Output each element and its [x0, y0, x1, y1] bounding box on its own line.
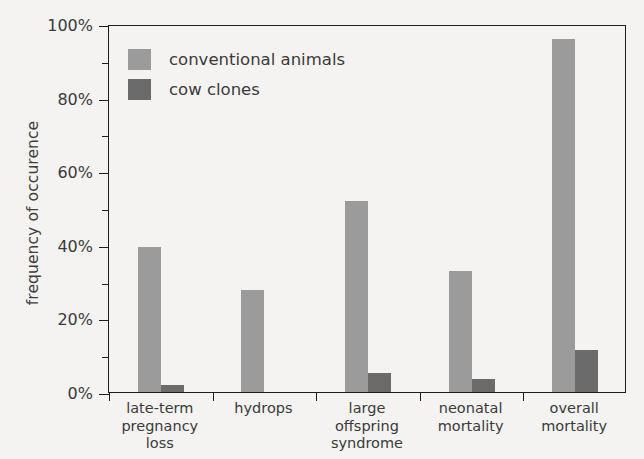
legend-item-conventional-animals: conventional animals	[128, 44, 345, 74]
y-axis-tick: 0%	[99, 394, 109, 395]
bar	[552, 39, 575, 392]
legend-swatch-icon	[128, 79, 151, 100]
y-axis-minor-tick	[102, 357, 109, 358]
x-axis-category-label: hydrops	[212, 400, 316, 418]
bar	[138, 247, 161, 392]
y-axis-tick-label: 40%	[57, 237, 93, 256]
x-axis-category-label: neonatal mortality	[419, 400, 523, 435]
y-axis-tick: 20%	[99, 320, 109, 321]
x-axis-category-label: late-term pregnancy loss	[108, 400, 212, 453]
y-axis-minor-tick	[102, 63, 109, 64]
legend: conventional animals cow clones	[128, 44, 345, 104]
legend-label: cow clones	[169, 80, 260, 99]
y-axis-minor-tick	[102, 136, 109, 137]
y-axis-tick: 80%	[99, 100, 109, 101]
legend-item-cow-clones: cow clones	[128, 74, 345, 104]
x-axis-category-label: large offspring syndrome	[315, 400, 419, 453]
y-axis-tick: 40%	[99, 247, 109, 248]
y-axis-tick-label: 60%	[57, 163, 93, 182]
bar	[241, 290, 264, 392]
y-axis-title: frequency of occurence	[24, 83, 42, 343]
chart-figure: frequency of occurence 0%20%40%60%80%100…	[0, 0, 644, 459]
bar	[368, 373, 391, 392]
y-axis-tick-label: 0%	[68, 384, 93, 403]
bar	[449, 271, 472, 392]
y-axis-tick: 100%	[99, 26, 109, 27]
legend-label: conventional animals	[169, 50, 345, 69]
bar	[472, 379, 495, 392]
y-axis-minor-tick	[102, 210, 109, 211]
y-axis-tick-label: 100%	[47, 16, 93, 35]
bar	[161, 385, 184, 392]
y-axis-minor-tick	[102, 284, 109, 285]
y-axis-tick-label: 20%	[57, 310, 93, 329]
y-axis-tick: 60%	[99, 173, 109, 174]
x-axis-category-label: overall mortality	[522, 400, 626, 435]
bar	[575, 350, 598, 392]
bar	[345, 201, 368, 392]
legend-swatch-icon	[128, 49, 151, 70]
y-axis-tick-label: 80%	[57, 90, 93, 109]
